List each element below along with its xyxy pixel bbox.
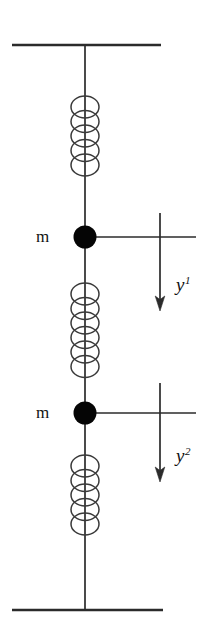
displacement-2-symbol: y (176, 445, 184, 466)
mass-1-label: m (36, 228, 49, 245)
displacement-1-symbol: y (176, 274, 184, 295)
displacement-arrow-2 (155, 383, 165, 482)
spring-mass-diagram: m m y1 y2 (0, 0, 213, 640)
diagram-canvas (0, 0, 213, 640)
displacement-2-label: y2 (176, 446, 190, 465)
displacement-2-superscript: 2 (185, 445, 191, 457)
displacement-arrow-1 (155, 213, 165, 311)
mass-2-label: m (36, 404, 49, 421)
displacement-1-superscript: 1 (185, 274, 191, 286)
mass-1-dot (74, 226, 97, 249)
mass-2-dot (74, 402, 97, 425)
displacement-1-label: y1 (176, 275, 190, 294)
